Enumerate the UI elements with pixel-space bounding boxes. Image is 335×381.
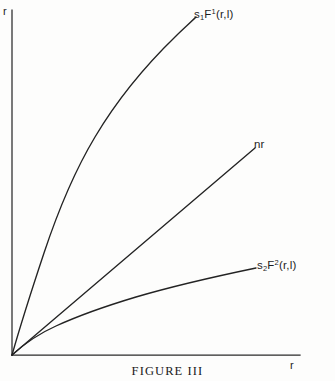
- chart-plot-area: [0, 0, 335, 381]
- curve-label-s2f2: s2F2(r,l): [257, 259, 297, 273]
- figure-caption: FIGURE III: [0, 364, 335, 379]
- y-axis-label: r: [3, 6, 7, 17]
- curve-s1f1: [12, 17, 196, 355]
- figure-container: s1F1(r,l) nr s2F2(r,l) r r FIGURE III: [0, 0, 335, 381]
- curve-label-s1f1-args: (r,l): [216, 8, 234, 20]
- curve-label-s2f2-fn: F: [267, 259, 274, 271]
- curve-label-nr: nr: [254, 139, 265, 151]
- line-nr: [12, 148, 255, 355]
- curve-label-s1f1-fn: F: [204, 8, 211, 20]
- curve-label-s2f2-args: (r,l): [279, 259, 297, 271]
- curve-s2f2: [12, 268, 256, 355]
- curve-label-s1f1: s1F1(r,l): [194, 8, 234, 22]
